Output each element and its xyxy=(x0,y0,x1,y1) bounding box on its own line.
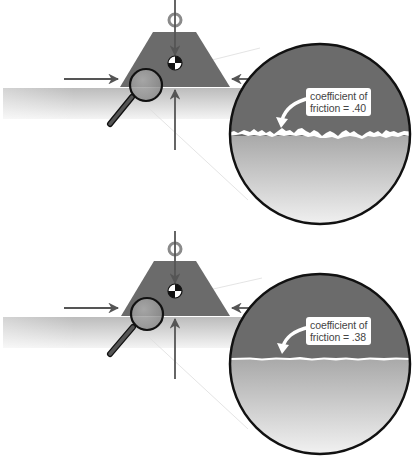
center-of-mass-icon xyxy=(168,56,182,70)
friction-diagram-bottom xyxy=(0,231,419,463)
friction-label: coefficient of friction = .40 xyxy=(306,88,371,116)
friction-label-line2: friction = .40 xyxy=(310,102,367,114)
friction-label-line1: coefficient of xyxy=(310,319,367,331)
zoom-circle xyxy=(228,40,414,230)
friction-panel-top: coefficient of friction = .40 xyxy=(0,0,419,232)
center-of-mass-icon xyxy=(168,284,182,298)
friction-label-line2: friction = .38 xyxy=(310,331,367,343)
friction-label: coefficient of friction = .38 xyxy=(306,317,371,345)
friction-label-line1: coefficient of xyxy=(310,90,367,102)
zoom-circle xyxy=(228,271,414,461)
friction-panel-bottom: coefficient of friction = .38 xyxy=(0,231,419,463)
friction-diagram-top xyxy=(0,0,419,232)
